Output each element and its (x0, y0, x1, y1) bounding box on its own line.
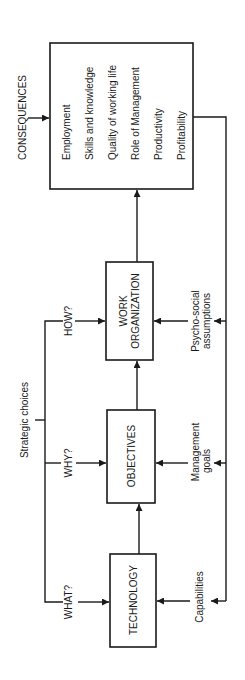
consequence-productivity: Productivity (153, 108, 164, 160)
consequence-quality-of-working-life: Quality of working life (107, 65, 118, 160)
consequences-items: Employment Skills and knowledge Quality … (61, 65, 187, 160)
management-goals-label-line1: Management (190, 423, 201, 482)
consequences-label: CONSEQUENCES (17, 75, 28, 160)
psycho-social-label-line2: assumptions (201, 293, 212, 349)
management-goals-label-line2: goals (201, 449, 212, 473)
work-organization-line2: ORGANIZATION (130, 273, 141, 348)
objectives-label: OBJECTIVES (126, 425, 137, 488)
consequence-profitability: Profitability (176, 111, 187, 160)
consequence-employment: Employment (61, 104, 72, 160)
consequence-skills: Skills and knowledge (84, 66, 95, 160)
strategic-choices-label: Strategic choices (19, 382, 30, 458)
work-organization-line1: WORK (118, 295, 129, 326)
psycho-social-label-line1: Psycho-social (190, 290, 201, 352)
capabilities-label: Capabilities (194, 571, 205, 623)
feedback-line (193, 117, 226, 601)
how-label: HOW? (63, 306, 74, 336)
consequence-role-of-management: Role of Management (130, 67, 141, 160)
strategic-choice-diagram: Employment Skills and knowledge Quality … (0, 0, 245, 680)
strategic-choices-bracket (45, 321, 63, 602)
why-label: WHY? (63, 448, 74, 477)
what-label: WHAT? (63, 584, 74, 619)
technology-label: TECHNOLOGY (128, 565, 139, 635)
